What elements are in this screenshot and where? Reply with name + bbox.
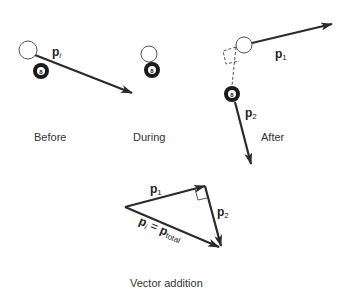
during-panel: 8 During xyxy=(133,46,165,143)
triangle-p1-arrow xyxy=(125,186,205,207)
p1-arrow xyxy=(252,24,332,43)
caption-during: During xyxy=(133,131,165,143)
label-p1: p1 xyxy=(275,47,287,62)
eight-ball-icon: 8 xyxy=(224,86,240,102)
label-p2: p2 xyxy=(245,106,257,121)
caption-after: After xyxy=(261,131,285,143)
label-p-initial: pi xyxy=(52,45,61,60)
eight-ball-icon: 8 xyxy=(33,63,49,79)
vector-addition-panel: p1 p2 pi = ptotal Vector addition xyxy=(125,182,229,289)
label-triangle-p2: p2 xyxy=(217,205,229,220)
cue-ball-icon xyxy=(236,37,252,53)
collision-diagram: 8 pi Before 8 During 8 p1 p2 After xyxy=(0,0,348,302)
cue-ball-icon xyxy=(19,41,37,59)
caption-before: Before xyxy=(34,131,66,143)
eight-ball-icon: 8 xyxy=(144,62,160,78)
right-angle-marker xyxy=(223,47,239,64)
caption-vector-addition: Vector addition xyxy=(130,277,203,289)
label-triangle-p1: p1 xyxy=(150,182,162,197)
initial-momentum-arrow xyxy=(35,55,132,93)
dashed-perpendicular-line xyxy=(232,47,236,86)
after-panel: 8 p1 p2 After xyxy=(223,24,332,164)
cue-ball-icon xyxy=(141,46,157,62)
before-panel: 8 pi Before xyxy=(19,41,132,143)
